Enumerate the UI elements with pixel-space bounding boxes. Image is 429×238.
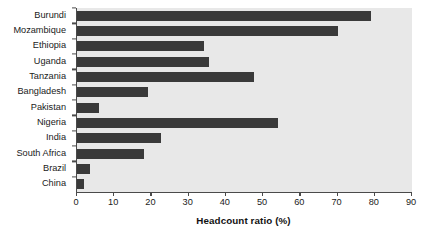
bar-uganda xyxy=(77,57,412,67)
y-tick-label-mozambique: Mozambique xyxy=(13,26,66,35)
bar-fill xyxy=(77,87,148,97)
bar-fill xyxy=(77,41,204,51)
y-tick-label-pakistan: Pakistan xyxy=(31,103,66,112)
headcount-ratio-bar-chart: BurundiMozambiqueEthiopiaUgandaTanzaniaB… xyxy=(0,0,429,238)
bar-fill xyxy=(77,57,209,67)
x-tick-mark xyxy=(113,192,114,196)
x-tick-label-20: 20 xyxy=(145,198,155,207)
y-tick-label-tanzania: Tanzania xyxy=(29,72,66,81)
x-tick-label-70: 70 xyxy=(331,198,341,207)
bar-fill xyxy=(77,26,338,36)
bar-fill xyxy=(77,11,371,21)
bar-bangladesh xyxy=(77,87,412,97)
y-tick-label-ethiopia: Ethiopia xyxy=(33,42,66,51)
bar-burundi xyxy=(77,11,412,21)
x-tick-mark xyxy=(374,192,375,196)
y-tick-label-uganda: Uganda xyxy=(34,57,66,66)
bar-fill xyxy=(77,118,278,128)
y-axis: BurundiMozambiqueEthiopiaUgandaTanzaniaB… xyxy=(0,8,72,192)
bar-fill xyxy=(77,133,161,143)
x-tick-mark xyxy=(299,192,300,196)
x-tick-mark xyxy=(150,192,151,196)
y-tick-label-china: China xyxy=(42,180,66,189)
y-tick-label-burundi: Burundi xyxy=(34,11,66,20)
bar-pakistan xyxy=(77,103,412,113)
bar-nigeria xyxy=(77,118,412,128)
y-tick-label-south-africa: South Africa xyxy=(16,149,66,158)
bar-fill xyxy=(77,149,144,159)
bar-fill xyxy=(77,164,90,174)
bar-fill xyxy=(77,103,99,113)
y-tick-label-nigeria: Nigeria xyxy=(37,118,66,127)
bar-tanzania xyxy=(77,72,412,82)
bar-mozambique xyxy=(77,26,412,36)
y-tick-label-bangladesh: Bangladesh xyxy=(17,88,66,97)
bar-brazil xyxy=(77,164,412,174)
plot-area xyxy=(76,8,412,192)
x-tick-label-10: 10 xyxy=(108,198,118,207)
x-tick-mark xyxy=(262,192,263,196)
bar-ethiopia xyxy=(77,41,412,51)
x-tick-mark xyxy=(225,192,226,196)
x-tick-label-40: 40 xyxy=(220,198,230,207)
x-tick-label-0: 0 xyxy=(73,198,78,207)
x-tick-label-60: 60 xyxy=(294,198,304,207)
x-tick-label-50: 50 xyxy=(257,198,267,207)
bar-india xyxy=(77,133,412,143)
x-tick-label-90: 90 xyxy=(406,198,416,207)
bar-fill xyxy=(77,179,84,189)
x-tick-label-80: 80 xyxy=(369,198,379,207)
y-tick-label-brazil: Brazil xyxy=(43,164,66,173)
x-tick-mark xyxy=(337,192,338,196)
bar-fill xyxy=(77,72,254,82)
x-tick-mark xyxy=(76,192,77,196)
bars-layer xyxy=(77,8,412,192)
x-axis-title: Headcount ratio (%) xyxy=(76,215,411,226)
bar-china xyxy=(77,179,412,189)
bar-south-africa xyxy=(77,149,412,159)
x-tick-mark xyxy=(411,192,412,196)
y-tick-label-india: India xyxy=(46,134,66,143)
x-tick-mark xyxy=(188,192,189,196)
x-tick-label-30: 30 xyxy=(183,198,193,207)
